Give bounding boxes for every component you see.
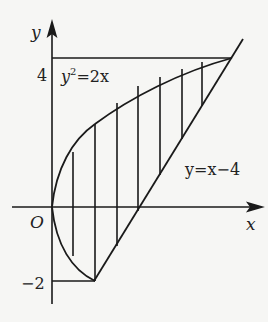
- diagram-canvas: y x O 4 −2 y2=2x y=x−4: [0, 0, 268, 322]
- x-axis-label: x: [246, 214, 256, 234]
- y-axis-arrow-icon: [48, 22, 56, 36]
- tick-label-minus2: −2: [21, 274, 45, 293]
- hatching-lines: [73, 62, 202, 281]
- x-axis-arrow-icon: [248, 203, 262, 211]
- y-axis-label: y: [30, 22, 41, 42]
- origin-label: O: [30, 212, 44, 232]
- tick-label-4: 4: [37, 66, 47, 85]
- parabola-label: y2=2x: [60, 66, 109, 86]
- line-label: y=x−4: [184, 160, 240, 179]
